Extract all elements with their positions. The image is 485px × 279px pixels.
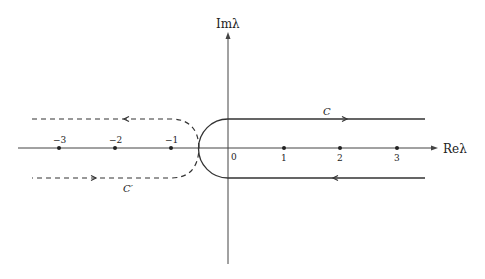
tick-label-neg1: −1: [165, 135, 178, 145]
origin-label: 0: [231, 152, 237, 162]
tick-label-2: 2: [337, 153, 343, 163]
imaginary-axis-arrow-icon: [226, 32, 231, 39]
tick-label-neg2: −2: [109, 135, 122, 145]
contour-diagram: Reλ Imλ 0 −3 −2 −1 1 2 3 C C′: [0, 0, 485, 279]
tick-dot-2: [338, 146, 342, 150]
axes: [18, 32, 438, 264]
tick-dot-neg2: [113, 146, 117, 150]
tick-dot-neg3: [57, 146, 61, 150]
real-axis-arrow-icon: [431, 146, 438, 151]
tick-dot-1: [282, 146, 286, 150]
tick-label-1: 1: [281, 153, 287, 163]
tick-dot-neg1: [169, 146, 173, 150]
real-axis-label: Reλ: [443, 142, 467, 156]
contour-c-label: C: [323, 106, 331, 117]
tick-label-3: 3: [394, 153, 400, 163]
tick-dot-3: [395, 146, 399, 150]
imaginary-axis-label: Imλ: [216, 17, 240, 31]
contour-c-prime-label: C′: [123, 183, 134, 194]
tick-label-neg3: −3: [53, 135, 67, 145]
